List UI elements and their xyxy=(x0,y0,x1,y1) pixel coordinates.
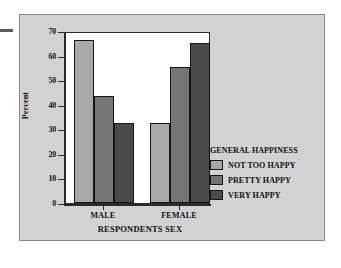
y-axis-tick xyxy=(58,204,64,205)
legend-swatch xyxy=(210,175,223,185)
x-axis-tick xyxy=(103,206,104,210)
y-axis-tick-label: 60 xyxy=(34,53,56,61)
x-axis-tick xyxy=(179,206,180,210)
y-axis-tick-label: 70 xyxy=(34,28,56,36)
y-axis-tick xyxy=(58,179,64,180)
bar-female-pretty-happy xyxy=(170,67,190,203)
legend-item-label: VERY HAPPY xyxy=(228,191,281,200)
x-axis-label-female: FEMALE xyxy=(144,211,214,220)
bars-container xyxy=(66,33,209,203)
legend-swatch xyxy=(210,190,223,200)
bar-female-not-too-happy xyxy=(150,123,170,203)
x-axis-title: RESPONDENTS SEX xyxy=(50,224,230,234)
legend-title: GENERAL HAPPINESS xyxy=(210,146,322,155)
bar-female-very-happy xyxy=(190,43,210,203)
legend-item: PRETTY HAPPY xyxy=(210,175,322,185)
bar-male-very-happy xyxy=(114,123,134,203)
y-axis-tick-label: 10 xyxy=(34,175,56,183)
legend: GENERAL HAPPINESS NOT TOO HAPPYPRETTY HA… xyxy=(210,146,322,205)
y-axis-tick-label: 0 xyxy=(34,200,56,208)
legend-items: NOT TOO HAPPYPRETTY HAPPYVERY HAPPY xyxy=(210,160,322,200)
y-axis-tick xyxy=(58,81,64,82)
bar-male-not-too-happy xyxy=(74,40,94,203)
y-axis-tick-label: 30 xyxy=(34,126,56,134)
y-axis-tick xyxy=(58,130,64,131)
x-axis-line xyxy=(64,204,211,206)
y-axis-tick xyxy=(58,32,64,33)
y-axis-tick xyxy=(58,155,64,156)
x-axis-label-male: MALE xyxy=(68,211,138,220)
chart-panel: 706050403020100 Percent MALEFEMALE RESPO… xyxy=(19,14,325,241)
y-axis-tick xyxy=(58,106,64,107)
legend-item: NOT TOO HAPPY xyxy=(210,160,322,170)
y-axis-line xyxy=(64,32,66,205)
legend-item-label: PRETTY HAPPY xyxy=(228,176,291,185)
y-axis-tick xyxy=(58,57,64,58)
y-axis-title: Percent xyxy=(21,92,30,119)
y-axis-tick-label: 40 xyxy=(34,102,56,110)
legend-item-label: NOT TOO HAPPY xyxy=(228,161,296,170)
plot-area xyxy=(65,32,210,204)
y-axis-tick-label: 20 xyxy=(34,151,56,159)
left-edge-marker xyxy=(0,29,13,32)
legend-item: VERY HAPPY xyxy=(210,190,322,200)
bar-male-pretty-happy xyxy=(94,96,114,203)
legend-swatch xyxy=(210,160,223,170)
y-axis-tick-label: 50 xyxy=(34,77,56,85)
